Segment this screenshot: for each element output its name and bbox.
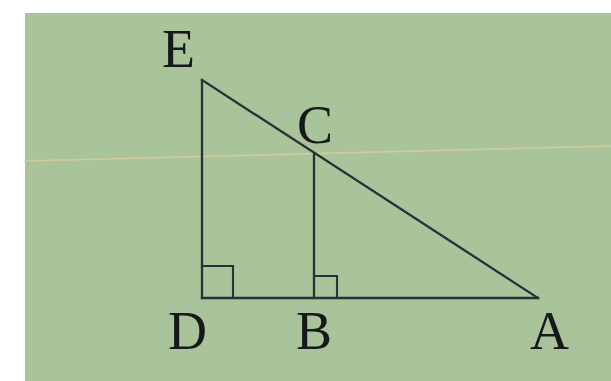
vertex-label-e: E — [162, 22, 195, 76]
vertex-label-b: B — [296, 304, 332, 358]
geometry-figure: E C D B A — [0, 0, 611, 381]
vertex-label-c: C — [297, 98, 333, 152]
vertex-label-a: A — [530, 304, 569, 358]
vertex-label-d: D — [168, 304, 207, 358]
